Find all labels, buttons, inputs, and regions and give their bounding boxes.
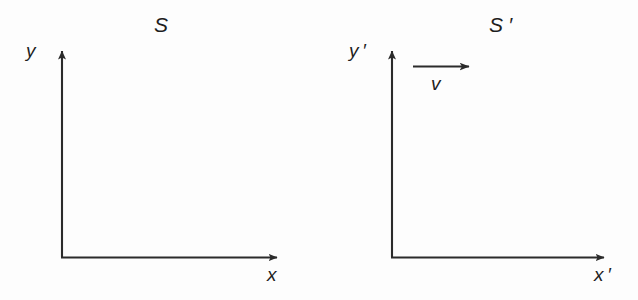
y-axis-label: y <box>26 41 36 60</box>
xprime-axis-label: x ′ <box>594 265 611 284</box>
yprime-axis-label: y ′ <box>349 41 366 60</box>
axes-vector-layer <box>0 0 638 300</box>
velocity-label: v <box>431 74 441 93</box>
frame-sprime-axes <box>391 51 604 258</box>
reference-frames-diagram: S S ′ y x y ′ x ′ v <box>0 0 638 300</box>
frame-s-axes <box>61 51 277 258</box>
frame-s-name-label: S <box>154 14 169 35</box>
frame-sprime-name-label: S ′ <box>489 14 513 35</box>
x-axis-label: x <box>267 265 277 284</box>
